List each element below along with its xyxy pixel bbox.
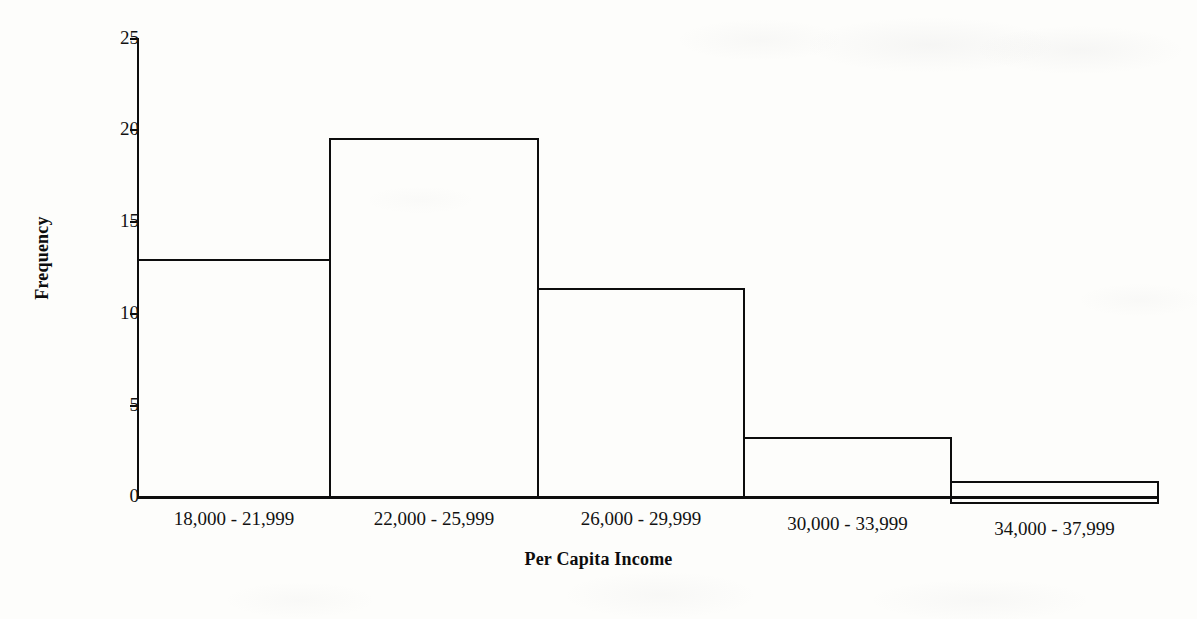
y-tick-label-25: 25 bbox=[93, 28, 139, 47]
bar-26000-29999 bbox=[537, 288, 745, 499]
x-axis-line bbox=[137, 496, 1159, 499]
x-tick-label-3: 30,000 - 33,999 bbox=[743, 513, 952, 535]
y-tick-label-0: 0 bbox=[93, 486, 139, 505]
y-tick-label-20: 20 bbox=[93, 119, 139, 138]
bar-34000-37999 bbox=[950, 481, 1159, 504]
x-tick-label-4: 34,000 - 37,999 bbox=[950, 518, 1159, 540]
y-tick-label-15: 15 bbox=[93, 211, 139, 230]
bar-18000-21999 bbox=[137, 259, 331, 499]
bar-22000-25999 bbox=[329, 138, 539, 499]
x-tick-label-2: 26,000 - 29,999 bbox=[537, 508, 745, 530]
x-axis-title: Per Capita Income bbox=[0, 549, 1197, 570]
bar-30000-33999 bbox=[743, 437, 952, 499]
histogram-chart: 25 20 15 10 5 0 18,000 - 21,999 22,000 -… bbox=[0, 0, 1197, 619]
y-tick-label-10: 10 bbox=[93, 303, 139, 322]
y-axis-title: Frequency bbox=[32, 216, 53, 299]
y-tick-label-5: 5 bbox=[93, 395, 139, 414]
x-tick-label-0: 18,000 - 21,999 bbox=[137, 508, 331, 530]
x-tick-label-1: 22,000 - 25,999 bbox=[329, 508, 539, 530]
